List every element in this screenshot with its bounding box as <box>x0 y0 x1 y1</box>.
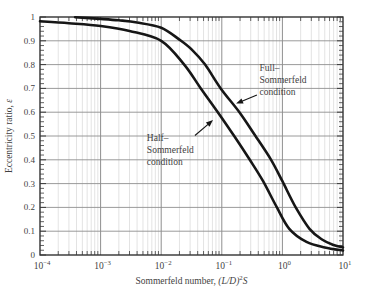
x-tick-label: 10−2 <box>155 259 172 271</box>
y-tick-label: 0.2 <box>24 202 35 212</box>
x-axis-title: Sommerfeld number, (L/D)2S <box>135 274 247 287</box>
x-tick-label: 100 <box>278 259 292 271</box>
y-tick-label: 0 <box>31 250 36 260</box>
full-sommerfeld-label-line: Sommerfeld <box>260 75 307 85</box>
x-tick-label: 10−1 <box>215 259 232 271</box>
full-sommerfeld-label-line: condition <box>260 87 296 97</box>
y-axis-title: Eccentricity ratio, ε <box>4 99 14 173</box>
y-tick-label: 0.6 <box>24 107 36 117</box>
y-tick-label: 0.8 <box>24 60 36 70</box>
y-tick-label: 0.3 <box>24 179 36 189</box>
half-sommerfeld-label-line: condition <box>147 157 183 167</box>
y-tick-label: 0.4 <box>24 155 36 165</box>
y-tick-label: 0.9 <box>24 36 36 46</box>
full-sommerfeld-label-arrow-line <box>241 95 257 102</box>
x-tick-label: 10−4 <box>34 259 51 271</box>
half-sommerfeld-label-line: Sommerfeld <box>147 145 194 155</box>
curve-full-sommerfeld <box>75 17 343 247</box>
bearing-eccentricity-figure: Full–SommerfeldconditionHalf–Sommerfeldc… <box>0 0 365 302</box>
eccentricity-vs-sommerfeld-chart: Full–SommerfeldconditionHalf–Sommerfeldc… <box>0 0 365 302</box>
full-sommerfeld-label-line: Full– <box>260 63 280 73</box>
y-tick-label: 0.1 <box>24 226 35 236</box>
y-tick-label: 0.5 <box>24 131 36 141</box>
x-tick-label: 10−3 <box>94 259 111 271</box>
y-tick-label: 1 <box>31 12 36 22</box>
y-tick-label: 0.7 <box>24 83 36 93</box>
x-tick-label: 101 <box>339 259 352 271</box>
half-sommerfeld-label-line: Half– <box>147 133 169 143</box>
half-sommerfeld-label-arrow-line <box>195 123 209 135</box>
